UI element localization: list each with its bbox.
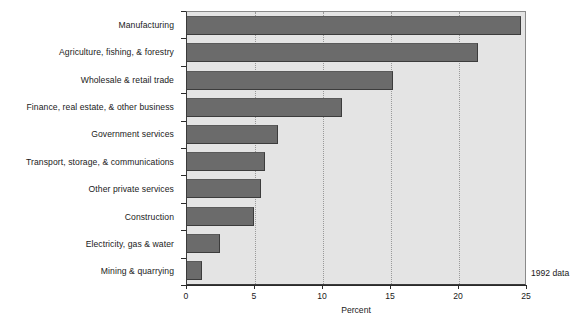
bar-government-services xyxy=(186,125,278,144)
bar-finance-real-estate xyxy=(186,98,342,117)
bar-row xyxy=(187,175,525,202)
x-axis-label: Percent xyxy=(186,305,526,315)
category-label: Construction xyxy=(0,203,180,230)
category-axis: Manufacturing Agriculture, fishing, & fo… xyxy=(0,11,180,285)
x-tick-label: 15 xyxy=(385,291,395,301)
bar-agriculture-fishing-forestry xyxy=(186,43,478,62)
category-label: Transport, storage, & communications xyxy=(0,148,180,175)
category-label: Other private services xyxy=(0,175,180,202)
bar-row xyxy=(187,39,525,66)
chart-annotation: 1992 data xyxy=(531,268,569,278)
bar-manufacturing xyxy=(186,16,521,35)
category-label: Electricity, gas & water xyxy=(0,230,180,257)
category-label: Finance, real estate, & other business xyxy=(0,93,180,120)
bar-electricity-gas-water xyxy=(186,234,220,253)
category-label: Mining & quarrying xyxy=(0,258,180,285)
category-label: Wholesale & retail trade xyxy=(0,66,180,93)
x-tick xyxy=(526,285,527,289)
bar-wholesale-retail-trade xyxy=(186,71,393,90)
bar-row xyxy=(187,12,525,39)
bar-row xyxy=(187,121,525,148)
bar-row xyxy=(187,66,525,93)
x-tick xyxy=(390,285,391,289)
bar-chart: Manufacturing Agriculture, fishing, & fo… xyxy=(0,0,584,323)
bar-row xyxy=(187,148,525,175)
bar-row xyxy=(187,94,525,121)
category-label: Agriculture, fishing, & forestry xyxy=(0,38,180,65)
x-tick xyxy=(186,285,187,289)
bar-construction xyxy=(186,207,254,226)
bar-row xyxy=(187,257,525,284)
bar-row xyxy=(187,202,525,229)
plot-area xyxy=(186,11,526,285)
x-tick xyxy=(458,285,459,289)
x-tick-label: 10 xyxy=(317,291,327,301)
category-label: Government services xyxy=(0,121,180,148)
x-tick-label: 0 xyxy=(184,291,189,301)
bar-series xyxy=(187,12,525,284)
x-tick-label: 25 xyxy=(521,291,531,301)
x-tick xyxy=(254,285,255,289)
x-tick-label: 5 xyxy=(252,291,257,301)
bar-transport-storage-communications xyxy=(186,152,265,171)
x-tick-label: 20 xyxy=(453,291,463,301)
bar-row xyxy=(187,230,525,257)
x-axis-line xyxy=(186,285,526,286)
bar-mining-quarrying xyxy=(186,261,202,280)
bar-other-private-services xyxy=(186,179,261,198)
category-label: Manufacturing xyxy=(0,11,180,38)
x-tick xyxy=(322,285,323,289)
